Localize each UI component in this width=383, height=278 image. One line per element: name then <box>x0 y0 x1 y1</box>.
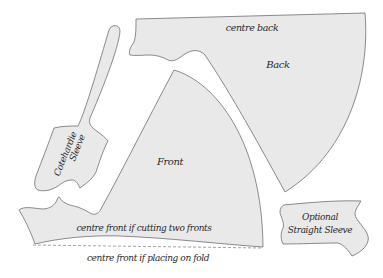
cotehardie-sleeve-outline <box>35 26 120 191</box>
front-centre-label: centre front if cutting two fronts <box>76 223 212 233</box>
cotehardie-sleeve-piece: Cotehardie Sleeve <box>35 26 120 191</box>
back-centre-label: centre back <box>226 22 279 33</box>
front-label: Front <box>156 156 185 167</box>
straight-sleeve-piece: Optional Straight Sleeve <box>280 201 368 256</box>
fold-line <box>33 245 262 248</box>
straight-sleeve-label-1: Optional <box>302 212 338 222</box>
pattern-diagram: centre back Back Front centre front if c… <box>0 0 383 278</box>
back-label: Back <box>265 59 290 70</box>
straight-sleeve-label-2: Straight Sleeve <box>288 225 353 235</box>
fold-line-group: centre front if placing on fold <box>33 245 262 263</box>
fold-line-label: centre front if placing on fold <box>87 253 210 263</box>
